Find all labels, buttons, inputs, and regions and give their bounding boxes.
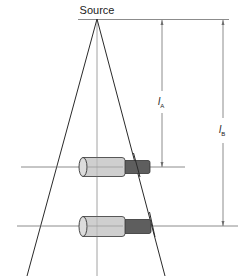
cylinder-body xyxy=(123,220,151,234)
dimension-a-label: lA xyxy=(158,96,164,109)
dimension-a: lA xyxy=(158,20,164,167)
beam-divergence-diagram: Source lA lB xyxy=(0,0,241,279)
dimension-b-label: lB xyxy=(219,124,225,137)
dimension-b: lB xyxy=(219,20,225,226)
cylinder-end-cap xyxy=(79,217,87,237)
arrowhead-up-icon xyxy=(161,20,164,25)
arrowhead-down-icon xyxy=(222,221,225,226)
cylinder-end-cap xyxy=(79,158,87,177)
cylinder-object-b xyxy=(79,217,151,237)
source-label: Source xyxy=(80,4,115,16)
beam-edge-right xyxy=(97,19,165,276)
arrowhead-down-icon xyxy=(161,162,164,167)
arrowhead-up-icon xyxy=(222,20,225,25)
beam-edge-left xyxy=(27,19,97,276)
cylinder-body xyxy=(83,217,125,237)
